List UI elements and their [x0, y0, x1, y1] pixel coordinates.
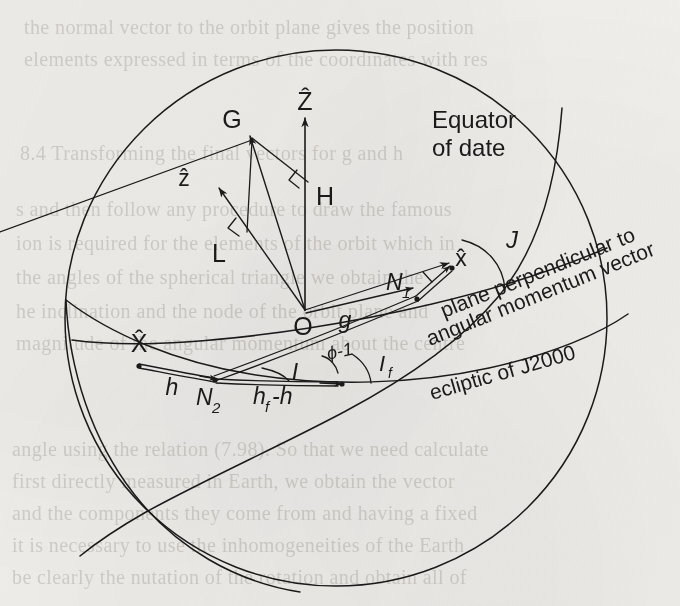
segment-g-to-l [0, 140, 252, 232]
label-node-n2: N 2 [196, 384, 221, 416]
label-if-subscript: f [388, 365, 394, 381]
label-hf-tail: -h [272, 383, 292, 409]
angle-arc-if [352, 354, 371, 383]
segment-hf-minus-h-a [216, 379, 338, 382]
z-body-axis [219, 188, 305, 310]
label-z-inertial: Ẑ [297, 87, 312, 115]
label-if-letter: I [379, 351, 385, 376]
label-angle-if: I f [379, 351, 394, 381]
node-dot-n2 [212, 377, 217, 382]
sphere-outline [65, 50, 607, 586]
node-dot-xhat-equator [449, 265, 454, 270]
celestial-sphere-diagram: Ẑ G H ẑ L O X̂ x̂ N 1 N 2 [0, 0, 680, 606]
equator-of-date-curve [80, 108, 562, 556]
node-dot-n1 [414, 296, 419, 301]
tick-mark-n1 [423, 272, 432, 282]
label-origin: O [293, 312, 312, 340]
label-node-n2-subscript: 2 [211, 399, 221, 416]
segment-g-to-h [252, 138, 308, 182]
node-dot-ecliptic-intersection [339, 381, 344, 386]
label-ecliptic-of-j2000: ecliptic of J2000 [427, 340, 578, 404]
figure-root: the normal vector to the orbit plane giv… [0, 0, 680, 606]
label-angle-i: I [292, 359, 299, 385]
vector-g [250, 136, 305, 310]
label-node-n1-letter: N [386, 269, 403, 295]
label-x-inertial: X̂ [131, 329, 148, 357]
label-node-n1-subscript: 1 [402, 284, 410, 301]
node-dot-xhat [136, 363, 141, 368]
segment-n1-to-xhat-a [416, 266, 450, 296]
label-angle-hf-minus-h: h f -h [253, 383, 292, 415]
segment-g-to-l-line [247, 140, 252, 232]
label-angle-phi: ɸ-1 [325, 339, 355, 364]
label-angle-j: J [505, 226, 519, 253]
label-hf-subscript: f [265, 398, 271, 415]
label-node-n1: N 1 [386, 269, 410, 301]
sphere-back-limb-curve [66, 300, 300, 592]
label-point-g: G [222, 105, 241, 133]
label-equator-of-date-line1: Equator [432, 106, 516, 133]
right-angle-mark-h [289, 170, 299, 188]
label-z-body: ẑ [178, 165, 190, 191]
label-angle-h: h [166, 374, 179, 400]
label-angle-g: g [339, 307, 352, 333]
segment-hf-minus-h-arrow [320, 383, 342, 384]
label-point-l: L [212, 239, 226, 267]
right-angle-mark-l [228, 218, 239, 236]
label-node-n2-letter: N [196, 384, 213, 410]
label-hf-letter: h [253, 383, 266, 409]
label-x-body: x̂ [455, 245, 467, 271]
label-equator-of-date-line2: of date [432, 134, 505, 161]
label-point-h: H [316, 182, 334, 210]
